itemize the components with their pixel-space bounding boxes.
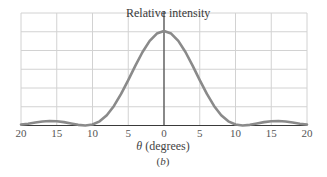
x-tick-label: 10 <box>87 127 98 139</box>
theta-symbol: θ <box>136 139 142 153</box>
x-tick-label: 5 <box>126 127 132 139</box>
x-tick-label: 10 <box>230 127 241 139</box>
x-tick-label: 20 <box>302 127 313 139</box>
x-tick-label: 20 <box>16 127 27 139</box>
x-tick-label: 5 <box>197 127 203 139</box>
x-tick-label: 0 <box>161 127 167 139</box>
x-axis-unit: (degrees) <box>145 139 190 153</box>
x-tick-label: 15 <box>266 127 277 139</box>
y-axis-label: Relative intensity <box>126 6 210 21</box>
x-axis-label: θ (degrees) <box>136 139 190 154</box>
axes <box>21 11 307 126</box>
x-tick-label: 15 <box>51 127 62 139</box>
panel-label: (b) <box>157 155 170 167</box>
